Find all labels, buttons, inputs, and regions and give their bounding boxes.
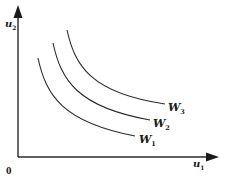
curve-w1 [38,58,135,136]
x-axis-label: u1 [193,158,204,171]
curve-w1-label: W1 [139,133,156,148]
x-axis-arrow-icon [206,153,219,162]
curve-w2 [53,43,150,120]
y-axis-label: u2 [5,18,16,31]
curve-w2-label: W2 [153,117,170,132]
welfare-curves-diagram: W3 W2 W1 u2 u1 0 [0,0,225,183]
origin-label: 0 [6,164,12,176]
curve-w3 [67,30,165,104]
curve-w3-label: W3 [168,101,185,116]
y-axis-arrow-icon [14,5,23,18]
